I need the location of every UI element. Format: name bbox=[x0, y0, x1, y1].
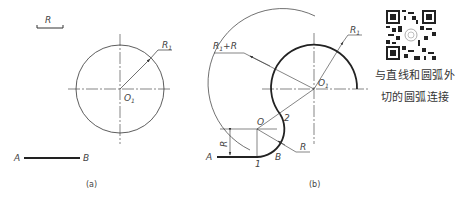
r-scale-bar bbox=[37, 25, 63, 28]
caption-line-2: 切的圆弧连接 bbox=[370, 88, 460, 104]
line-o-o1 bbox=[257, 89, 314, 129]
label-r-b: R bbox=[300, 142, 306, 152]
label-r-dim: R bbox=[219, 141, 229, 147]
label-r1: R1 bbox=[162, 40, 172, 51]
label-b-b: B bbox=[275, 152, 281, 162]
label-point-1: 1 bbox=[255, 159, 261, 169]
label-a-b: A bbox=[205, 152, 212, 162]
label-o1-b: O1 bbox=[318, 78, 329, 89]
label-b: B bbox=[83, 153, 89, 163]
caption-a: (a) bbox=[86, 180, 97, 189]
label-r1-b: R1 bbox=[350, 25, 360, 36]
label-point-2: 2 bbox=[284, 113, 290, 123]
qr-code-icon bbox=[386, 10, 436, 60]
figure-a: R R1 O1 A B (a) bbox=[13, 15, 172, 189]
label-r1-plus-r: R1+R bbox=[213, 41, 237, 52]
label-a: A bbox=[13, 153, 20, 163]
label-r: R bbox=[45, 15, 51, 25]
caption-line-1: 与直线和圆弧外 bbox=[370, 66, 460, 82]
radius-leader bbox=[120, 59, 150, 89]
label-o1: O1 bbox=[124, 93, 135, 104]
label-o: O bbox=[257, 117, 264, 127]
caption-b: (b) bbox=[309, 180, 320, 189]
figure-b: R1+R R1 O1 R O 2 1 R A B (b) bbox=[205, 9, 368, 189]
